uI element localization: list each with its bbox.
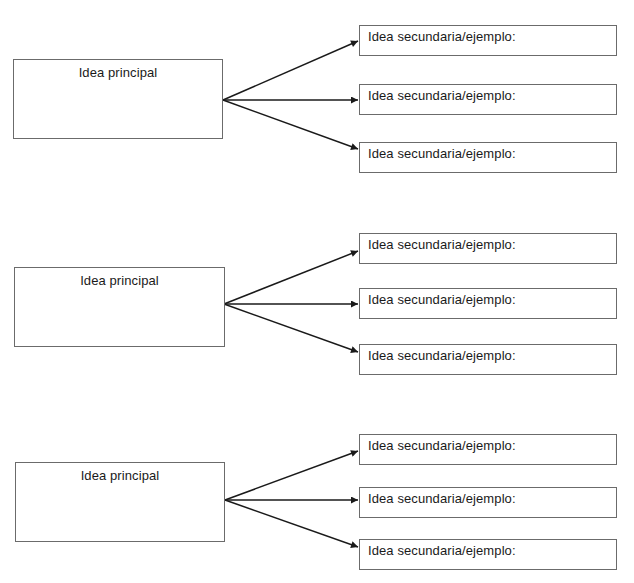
main-idea-box-2[interactable]: Idea principal — [14, 267, 225, 347]
arrow-2-1 — [224, 251, 358, 304]
arrow-1-3 — [223, 100, 358, 149]
secondary-idea-label: Idea secundaria/ejemplo: — [368, 348, 516, 363]
secondary-idea-label: Idea secundaria/ejemplo: — [368, 237, 516, 252]
secondary-idea-label: Idea secundaria/ejemplo: — [368, 438, 516, 453]
secondary-idea-label: Idea secundaria/ejemplo: — [368, 146, 516, 161]
secondary-idea-box-2-2[interactable]: Idea secundaria/ejemplo: — [359, 288, 617, 319]
secondary-idea-box-3-1[interactable]: Idea secundaria/ejemplo: — [359, 434, 617, 465]
main-idea-label: Idea principal — [15, 273, 224, 288]
secondary-idea-box-1-2[interactable]: Idea secundaria/ejemplo: — [359, 84, 617, 115]
secondary-idea-box-3-2[interactable]: Idea secundaria/ejemplo: — [359, 487, 617, 518]
secondary-idea-label: Idea secundaria/ejemplo: — [368, 29, 516, 44]
secondary-idea-label: Idea secundaria/ejemplo: — [368, 292, 516, 307]
arrow-1-1 — [223, 41, 358, 100]
secondary-idea-box-3-3[interactable]: Idea secundaria/ejemplo: — [359, 539, 617, 570]
main-idea-box-3[interactable]: Idea principal — [15, 462, 225, 542]
arrow-3-3 — [225, 500, 358, 547]
secondary-idea-box-1-1[interactable]: Idea secundaria/ejemplo: — [359, 25, 617, 56]
main-idea-label: Idea principal — [16, 468, 224, 483]
secondary-idea-box-2-1[interactable]: Idea secundaria/ejemplo: — [359, 233, 617, 264]
secondary-idea-box-2-3[interactable]: Idea secundaria/ejemplo: — [359, 344, 617, 375]
secondary-idea-label: Idea secundaria/ejemplo: — [368, 543, 516, 558]
secondary-idea-box-1-3[interactable]: Idea secundaria/ejemplo: — [359, 142, 617, 173]
main-idea-label: Idea principal — [14, 65, 222, 80]
main-idea-box-1[interactable]: Idea principal — [13, 59, 223, 139]
arrow-3-1 — [225, 451, 358, 500]
secondary-idea-label: Idea secundaria/ejemplo: — [368, 88, 516, 103]
secondary-idea-label: Idea secundaria/ejemplo: — [368, 491, 516, 506]
arrow-2-3 — [224, 304, 358, 352]
